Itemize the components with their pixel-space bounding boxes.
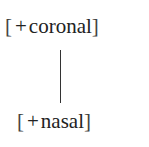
open-bracket: [ (17, 109, 24, 133)
feature-sign: + (15, 14, 27, 38)
feature-node-nasal: [+nasal] (17, 111, 91, 132)
close-bracket: ] (92, 14, 99, 38)
association-line (60, 50, 61, 103)
feature-node-coronal: [+coronal] (5, 16, 99, 37)
feature-label: coronal (29, 14, 92, 38)
close-bracket: ] (84, 109, 91, 133)
feature-label: nasal (41, 109, 84, 133)
feature-sign: + (27, 109, 39, 133)
open-bracket: [ (5, 14, 12, 38)
